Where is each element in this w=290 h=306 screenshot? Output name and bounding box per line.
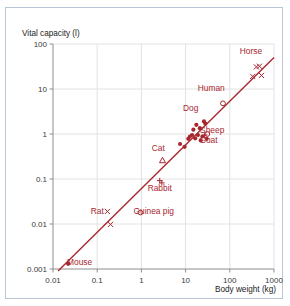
x-tick-label: 0.1 bbox=[92, 276, 104, 285]
x-tick-label: 1000 bbox=[265, 276, 283, 285]
marker-filled-circle bbox=[193, 136, 197, 140]
x-tick-label: 10 bbox=[181, 276, 190, 285]
annotation-goat: Goat bbox=[199, 135, 218, 145]
marker-filled-circle bbox=[178, 142, 182, 146]
scatter-plot: 0.010.111010010000.0010.010.1110100 Hors… bbox=[0, 0, 290, 306]
chart-container: 0.010.111010010000.0010.010.1110100 Hors… bbox=[0, 0, 290, 306]
annotation-guinea-pig: Guinea pig bbox=[133, 206, 174, 216]
annotation-rabbit: Rabbit bbox=[148, 183, 173, 193]
y-tick-label: 1 bbox=[43, 130, 48, 139]
annotation-horse: Horse bbox=[240, 46, 263, 56]
point-annotations: HorseHumanDogSheepGoatCatRabbitGuinea pi… bbox=[67, 46, 262, 267]
tick-labels: 0.010.111010010000.0010.010.1110100 bbox=[27, 40, 283, 285]
x-tick-label: 100 bbox=[223, 276, 237, 285]
y-tick-label: 100 bbox=[34, 40, 48, 49]
marker-filled-circle bbox=[191, 128, 195, 132]
annotation-sheep: Sheep bbox=[200, 125, 225, 135]
y-tick-label: 0.1 bbox=[36, 175, 48, 184]
annotation-dog: Dog bbox=[183, 103, 199, 113]
x-tick-label: 1 bbox=[139, 276, 144, 285]
marker-triangle bbox=[159, 157, 165, 162]
annotation-mouse: Mouse bbox=[67, 257, 92, 267]
series-cat bbox=[159, 157, 165, 162]
grid-lines bbox=[53, 44, 274, 269]
marker-filled-circle bbox=[183, 145, 187, 149]
axis-lines bbox=[53, 44, 274, 269]
annotation-human: Human bbox=[198, 83, 225, 93]
annotation-rat: Rat bbox=[91, 206, 105, 216]
y-tick-label: 0.001 bbox=[27, 265, 48, 274]
series-horse bbox=[250, 64, 264, 79]
series-human bbox=[221, 101, 226, 106]
x-tick-label: 0.01 bbox=[45, 276, 61, 285]
marker-filled-circle bbox=[190, 133, 194, 137]
trend-line bbox=[58, 58, 274, 272]
y-axis-title: Vital capacity (l) bbox=[22, 29, 80, 38]
regression-line bbox=[58, 58, 274, 272]
annotation-cat: Cat bbox=[152, 143, 166, 153]
y-tick-label: 0.01 bbox=[31, 220, 47, 229]
y-tick-label: 10 bbox=[38, 85, 47, 94]
marker-open-circle bbox=[221, 101, 226, 106]
marker-filled-circle bbox=[194, 123, 198, 127]
x-axis-title: Body weight (kg) bbox=[215, 285, 276, 294]
